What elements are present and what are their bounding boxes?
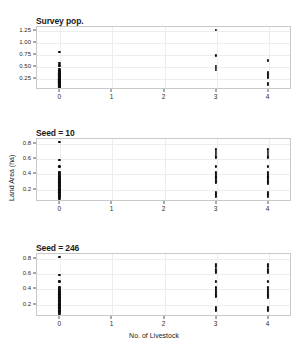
- plot-area: [36, 138, 291, 201]
- y-tick-mark: [33, 78, 36, 79]
- x-tick-mark: [163, 89, 164, 92]
- gridline-horizontal: [37, 174, 290, 175]
- x-tick-label: 0: [58, 320, 62, 327]
- x-tick-mark: [59, 316, 60, 319]
- gridline-horizontal: [37, 144, 290, 145]
- gridline-vertical: [217, 254, 218, 315]
- x-tick-mark: [163, 201, 164, 204]
- panel-title: Survey pop.: [36, 16, 84, 26]
- gridline-horizontal: [37, 43, 290, 44]
- gridline-horizontal: [37, 55, 290, 56]
- y-tick-label: 0.4: [2, 285, 31, 291]
- y-tick-label: 1.25: [2, 27, 31, 33]
- y-tick-label: 1.00: [2, 39, 31, 45]
- x-axis-title: No. of Livestock: [0, 332, 308, 339]
- x-tick-label: 4: [266, 93, 270, 100]
- x-tick-label: 0: [58, 93, 62, 100]
- gridline-horizontal: [37, 31, 290, 32]
- gridline-vertical: [165, 139, 166, 200]
- y-tick-mark: [33, 173, 36, 174]
- x-tick-label: 2: [162, 93, 166, 100]
- x-tick-label: 1: [110, 205, 114, 212]
- x-tick-mark: [111, 89, 112, 92]
- gridline-vertical: [112, 27, 113, 88]
- panel-title: Seed = 246: [36, 243, 79, 253]
- y-tick-mark: [33, 142, 36, 143]
- gridline-vertical: [269, 139, 270, 200]
- gridline-horizontal: [37, 159, 290, 160]
- gridline-horizontal: [37, 259, 290, 260]
- gridline-vertical: [269, 254, 270, 315]
- gridline-horizontal: [37, 289, 290, 290]
- gridline-vertical: [112, 139, 113, 200]
- y-tick-label: 0.2: [2, 186, 31, 192]
- gridline-vertical: [269, 27, 270, 88]
- x-tick-mark: [59, 201, 60, 204]
- y-axis-title: Land Area (ha): [8, 155, 15, 201]
- gridline-vertical: [60, 27, 61, 88]
- y-tick-mark: [33, 272, 36, 273]
- x-tick-label: 4: [266, 205, 270, 212]
- x-tick-mark: [111, 201, 112, 204]
- y-tick-mark: [33, 54, 36, 55]
- gridline-vertical: [112, 254, 113, 315]
- gridline-horizontal: [37, 190, 290, 191]
- y-tick-label: 0.6: [2, 270, 31, 276]
- x-tick-mark: [267, 201, 268, 204]
- x-tick-label: 2: [162, 205, 166, 212]
- x-tick-mark: [267, 316, 268, 319]
- panel-title: Seed = 10: [36, 128, 75, 138]
- gridline-horizontal: [37, 305, 290, 306]
- x-tick-label: 0: [58, 205, 62, 212]
- x-tick-mark: [267, 89, 268, 92]
- y-tick-label: 0.50: [2, 63, 31, 69]
- gridline-vertical: [217, 27, 218, 88]
- gridline-horizontal: [37, 67, 290, 68]
- y-tick-mark: [33, 288, 36, 289]
- x-tick-mark: [163, 316, 164, 319]
- gridline-vertical: [60, 254, 61, 315]
- y-tick-label: 0.25: [2, 75, 31, 81]
- x-tick-mark: [215, 316, 216, 319]
- x-tick-label: 1: [110, 93, 114, 100]
- x-tick-mark: [215, 89, 216, 92]
- plot-area: [36, 26, 291, 89]
- y-tick-mark: [33, 41, 36, 42]
- gridline-vertical: [165, 27, 166, 88]
- y-tick-mark: [33, 303, 36, 304]
- x-tick-label: 3: [214, 205, 218, 212]
- x-tick-label: 3: [214, 93, 218, 100]
- y-tick-mark: [33, 257, 36, 258]
- y-tick-label: 0.6: [2, 155, 31, 161]
- plot-area: [36, 253, 291, 316]
- y-tick-mark: [33, 29, 36, 30]
- x-tick-label: 3: [214, 320, 218, 327]
- gridline-vertical: [217, 139, 218, 200]
- gridline-vertical: [60, 139, 61, 200]
- x-tick-mark: [111, 316, 112, 319]
- y-tick-label: 0.8: [2, 255, 31, 261]
- y-tick-mark: [33, 66, 36, 67]
- gridline-horizontal: [37, 79, 290, 80]
- x-tick-mark: [215, 201, 216, 204]
- gridline-vertical: [165, 254, 166, 315]
- y-tick-label: 0.2: [2, 301, 31, 307]
- y-tick-mark: [33, 188, 36, 189]
- y-tick-mark: [33, 157, 36, 158]
- x-tick-label: 4: [266, 320, 270, 327]
- y-tick-label: 0.8: [2, 140, 31, 146]
- x-tick-label: 2: [162, 320, 166, 327]
- gridline-horizontal: [37, 274, 290, 275]
- y-tick-label: 0.75: [2, 51, 31, 57]
- x-tick-mark: [59, 89, 60, 92]
- y-tick-label: 0.4: [2, 170, 31, 176]
- x-tick-label: 1: [110, 320, 114, 327]
- multi-panel-scatter-figure: Land Area (ha) No. of Livestock Survey p…: [0, 0, 308, 354]
